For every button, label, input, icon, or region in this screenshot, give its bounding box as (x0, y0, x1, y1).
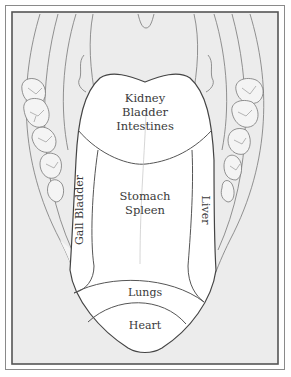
label-gall-bladder: Gall Bladder (73, 170, 87, 250)
label-bladder: Bladder (100, 105, 190, 119)
label-liver: Liver (198, 185, 212, 235)
label-kidney: Kidney (100, 91, 190, 105)
label-spleen: Spleen (105, 203, 185, 217)
zone-label-stomach-spleen: Stomach Spleen (105, 189, 185, 217)
label-stomach: Stomach (105, 189, 185, 203)
zone-label-kidney-bladder-intestines: Kidney Bladder Intestines (100, 91, 190, 133)
tongue-diagram: Kidney Bladder Intestines Stomach Spleen… (0, 0, 291, 377)
label-lungs: Lungs (110, 286, 180, 300)
label-intestines: Intestines (100, 119, 190, 133)
label-heart: Heart (110, 319, 180, 333)
